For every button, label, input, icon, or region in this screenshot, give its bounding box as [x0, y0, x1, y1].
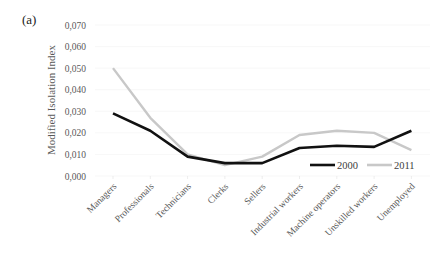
- y-tick-label: 0,030: [65, 107, 87, 117]
- legend-label-2000: 2000: [337, 160, 358, 171]
- x-category-label: Unemployed: [375, 181, 417, 223]
- gridlines: [95, 25, 430, 176]
- panel-label: (a): [22, 12, 36, 27]
- y-tick-label: 0,020: [65, 128, 87, 138]
- line-chart: (a) Modified Isolation Index 0,0000,0100…: [0, 0, 437, 257]
- y-axis-title: Modified Isolation Index: [45, 45, 57, 155]
- series-lines: [113, 68, 411, 165]
- series-line-2011: [113, 68, 411, 165]
- y-tick-label: 0,060: [65, 42, 87, 52]
- x-category-label: Managers: [85, 181, 119, 215]
- y-tick-label: 0,000: [65, 172, 87, 182]
- y-tick-label: 0,070: [65, 21, 87, 31]
- x-category-label: Technicians: [154, 181, 193, 220]
- y-tick-label: 0,050: [65, 64, 87, 74]
- y-tick-label: 0,040: [65, 85, 87, 95]
- y-axis-ticks: 0,0000,0100,0200,0300,0400,0500,0600,070: [65, 21, 87, 182]
- y-tick-label: 0,010: [65, 150, 87, 160]
- x-category-label: Clerks: [206, 181, 231, 206]
- legend: 20002011: [310, 160, 415, 171]
- x-category-label: Professionals: [113, 181, 156, 224]
- x-axis-labels: ManagersProfessionalsTechniciansClerksSe…: [85, 176, 417, 239]
- legend-label-2011: 2011: [394, 160, 415, 171]
- x-category-label: Sellers: [242, 181, 268, 207]
